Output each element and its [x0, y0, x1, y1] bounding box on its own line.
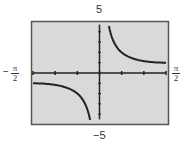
x-min-sign: −: [3, 67, 9, 77]
x-min-label: π 2: [11, 64, 19, 83]
y-min-label: −5: [93, 130, 106, 141]
x-max-denominator: 2: [174, 74, 179, 83]
x-min-denominator: 2: [13, 74, 18, 83]
x-max-label: π 2: [172, 64, 180, 83]
y-max-label: 5: [96, 4, 102, 15]
plot-area: [0, 0, 185, 149]
x-max-numerator: π: [174, 64, 179, 73]
x-min-numerator: π: [13, 64, 18, 73]
